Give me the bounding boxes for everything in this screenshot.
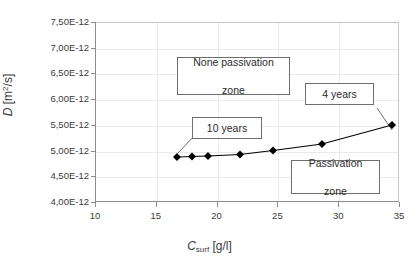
xtick-mark-0: [95, 202, 96, 207]
ytick-mark-4: [91, 99, 96, 100]
x-axis-title-subscript: surf: [196, 245, 209, 254]
ytick-mark-2: [91, 151, 96, 152]
annotation-ten-years-label: 10 years: [196, 121, 258, 135]
xtick-label-0: 10: [75, 211, 115, 221]
ytick-label-3: 5,50E-12: [11, 120, 89, 130]
annotation-ten-years: 10 years: [192, 117, 262, 139]
y-axis-title: D [m2/s]: [1, 50, 15, 140]
annotation-four-years-label: 4 years: [309, 87, 370, 101]
ytick-mark-1: [91, 176, 96, 177]
xtick-mark-4: [338, 202, 339, 207]
y-axis-title-symbol: D: [1, 108, 15, 117]
chart-figure: 7,50E-12 7,00E-12 6,50E-12 6,00E-12 5,50…: [0, 0, 419, 272]
ytick-mark-3: [91, 125, 96, 126]
xtick-label-2: 20: [197, 211, 237, 221]
ytick-label-4: 6,00E-12: [11, 94, 89, 104]
y-axis-title-unit-open: [m: [1, 91, 15, 108]
ytick-label-7: 7,50E-12: [11, 17, 89, 27]
gridline-v-15: [157, 23, 158, 201]
annotation-none-passivation-line2: zone: [181, 83, 286, 97]
ytick-label-5: 6,50E-12: [11, 68, 89, 78]
ytick-label-2: 5,00E-12: [11, 146, 89, 156]
annotation-four-years: 4 years: [305, 83, 374, 105]
ytick-label-1: 4,50E-12: [11, 171, 89, 181]
xtick-mark-5: [399, 202, 400, 207]
xtick-label-5: 35: [379, 211, 419, 221]
gridline-v-20: [218, 23, 219, 201]
xtick-label-1: 15: [136, 211, 176, 221]
xtick-mark-3: [277, 202, 278, 207]
annotation-passivation-line1: Passivation: [295, 156, 376, 170]
xtick-mark-2: [217, 202, 218, 207]
annotation-none-passivation-line1: None passivation: [181, 55, 286, 69]
annotation-passivation-line2: zone: [295, 184, 376, 198]
ytick-label-6: 7,00E-12: [11, 43, 89, 53]
xtick-label-3: 25: [257, 211, 297, 221]
xtick-mark-1: [156, 202, 157, 207]
x-axis-title-unit: [g/l]: [209, 239, 232, 253]
y-axis-title-unit-close: /s]: [1, 74, 15, 87]
gridline-h-7.00E-12: [96, 49, 398, 50]
ytick-label-0: 4,00E-12: [11, 197, 89, 207]
gridline-h-5.00E-12: [96, 152, 398, 153]
annotation-none-passivation-zone: None passivation zone: [177, 57, 290, 95]
ytick-mark-5: [91, 73, 96, 74]
x-axis-title-symbol: C: [187, 239, 196, 253]
gridline-v-25: [278, 23, 279, 201]
annotation-passivation-zone: Passivation zone: [291, 160, 380, 194]
ytick-mark-6: [91, 48, 96, 49]
xtick-label-4: 30: [318, 211, 358, 221]
ytick-mark-7: [91, 22, 96, 23]
y-axis-title-exponent: 2: [1, 86, 10, 90]
x-axis-title: Csurf [g/l]: [0, 239, 419, 253]
